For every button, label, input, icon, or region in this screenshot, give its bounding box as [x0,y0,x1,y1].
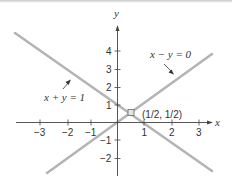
annotation-arrowhead-icon [66,80,72,86]
x-tick-label: 1 [142,127,148,138]
intersection-marker [128,110,134,116]
y-tick-label: −1 [100,135,112,146]
x-tick-label: 2 [169,127,175,138]
y-tick-label: 2 [106,82,112,93]
equation-label-x-minus-y: x − y = 0 [149,48,192,60]
equation-label-x-plus-y: x + y = 1 [43,91,85,103]
x-axis-label: x [214,116,220,128]
x-axis-arrow-icon [207,121,213,125]
y-axis-label: y [113,7,119,19]
y-tick-label: 3 [106,64,112,75]
x-tick-label: 3 [196,127,202,138]
coordinate-plane: x y −3 −2 −1 1 2 3 4 3 2 1 −1 −2 (1/2, 1… [0,0,232,183]
x-tick-label: −1 [85,127,97,138]
x-tick-label: −2 [62,127,74,138]
x-tick-label: −3 [34,127,46,138]
annotation-arrowhead-icon [169,70,175,75]
y-tick-label: −2 [100,153,112,164]
y-axis-arrow-icon [116,25,120,31]
y-tick-label: 1 [106,100,112,111]
y-tick-label: 4 [106,46,112,57]
y-axis [115,25,121,176]
intersection-label: (1/2, 1/2) [142,109,182,120]
